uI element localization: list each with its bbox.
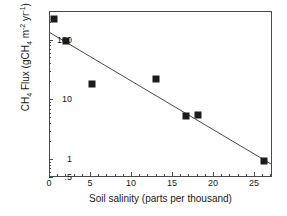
- x-tick-minor: [156, 174, 157, 176]
- y-title-m-exp: -2: [19, 24, 26, 30]
- x-tick-minor: [74, 174, 75, 176]
- x-tick-label: 15: [159, 178, 185, 188]
- x-tick-minor: [164, 174, 165, 176]
- y-title-gch-sub: 4: [26, 41, 33, 45]
- y-tick-minor: [49, 57, 51, 58]
- chart-figure: 0510152025 .5110100 Soil salinity (parts…: [0, 0, 287, 216]
- x-tick-minor: [139, 174, 140, 176]
- x-tick-minor: [205, 174, 206, 176]
- x-tick-label: 25: [241, 178, 267, 188]
- regression-line: [50, 12, 272, 177]
- y-title-ch-sub: 4: [26, 93, 33, 97]
- y-tick-minor: [49, 141, 51, 142]
- y-tick-minor: [49, 11, 51, 12]
- x-tick-minor: [246, 174, 247, 176]
- y-tick-minor: [49, 113, 51, 114]
- data-point: [195, 111, 202, 118]
- y-tick-minor: [49, 109, 51, 110]
- y-title-close: ): [20, 3, 31, 6]
- x-tick-major: [254, 172, 255, 176]
- y-tick-minor: [49, 49, 51, 50]
- y-tick-label: 1: [50, 154, 72, 164]
- y-tick-minor: [49, 22, 51, 23]
- y-tick-minor: [49, 53, 51, 54]
- fit-line: [50, 33, 272, 165]
- y-title-yr-exp: -1: [19, 6, 26, 12]
- y-tick-minor: [49, 105, 51, 106]
- x-tick-minor: [270, 174, 271, 176]
- y-tick-minor: [49, 63, 51, 64]
- x-tick-minor: [221, 174, 222, 176]
- y-tick-label: 10: [50, 94, 72, 104]
- y-tick-minor: [49, 123, 51, 124]
- x-tick-minor: [188, 174, 189, 176]
- y-title-ch: CH: [20, 97, 31, 111]
- x-tick-minor: [82, 174, 83, 176]
- x-tick-major: [90, 172, 91, 176]
- x-tick-minor: [262, 174, 263, 176]
- y-tick-minor: [49, 81, 51, 82]
- y-title-yr: yr: [20, 13, 31, 24]
- x-tick-minor: [180, 174, 181, 176]
- x-tick-major: [131, 172, 132, 176]
- x-tick-label: 10: [118, 178, 144, 188]
- x-tick-label: 20: [200, 178, 226, 188]
- x-axis-title: Soil salinity (parts per thousand): [49, 193, 272, 204]
- y-tick-minor: [49, 168, 51, 169]
- data-point: [183, 112, 190, 119]
- x-tick-minor: [123, 174, 124, 176]
- x-tick-minor: [238, 174, 239, 176]
- y-title-flux: Flux (gCH: [20, 45, 31, 93]
- x-tick-minor: [98, 174, 99, 176]
- y-tick-label: 100: [50, 35, 72, 45]
- x-tick-minor: [147, 174, 148, 176]
- y-title-m: m: [20, 30, 31, 41]
- x-tick-major: [172, 172, 173, 176]
- data-point: [88, 80, 95, 87]
- y-axis-title: CH4 Flux (gCH4 m-2 yr-1): [19, 0, 33, 137]
- x-tick-major: [213, 172, 214, 176]
- x-tick-label: 5: [77, 178, 103, 188]
- y-tick-minor: [49, 117, 51, 118]
- plot-area: [49, 11, 272, 177]
- x-tick-minor: [197, 174, 198, 176]
- y-tick-minor: [49, 131, 51, 132]
- y-tick-minor: [49, 165, 51, 166]
- y-tick-minor: [49, 45, 51, 46]
- data-point: [152, 75, 159, 82]
- y-tick-minor: [49, 71, 51, 72]
- x-tick-minor: [229, 174, 230, 176]
- x-tick-minor: [115, 174, 116, 176]
- y-tick-label: .5: [50, 172, 72, 182]
- x-tick-minor: [106, 174, 107, 176]
- data-point: [51, 15, 58, 22]
- data-point: [260, 158, 267, 165]
